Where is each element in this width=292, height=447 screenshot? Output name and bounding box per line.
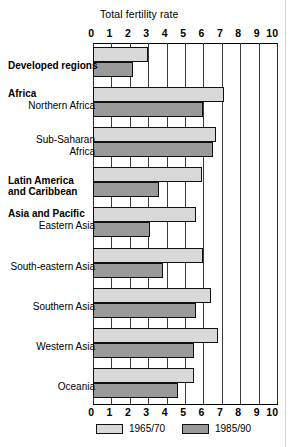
category-label-developed-regions: Developed regions (8, 60, 158, 72)
gridline-8 (240, 43, 241, 404)
category-label-latin-america-and-caribbean: Latin America and Caribbean (8, 175, 158, 198)
category-label-western-asia: Western Asia (0, 341, 95, 353)
bar-southern-asia-1985-90 (93, 303, 196, 318)
group-header-asia-and-pacific: Asia and Pacific (8, 208, 148, 220)
category-label-oceania: Oceania (0, 381, 95, 393)
gridline-10 (277, 43, 278, 404)
bar-western-asia-1965-70 (93, 328, 218, 343)
axis-rule-bottom (93, 404, 278, 405)
bar-oceania-1985-90 (93, 383, 178, 398)
x-tick-10: 10 (252, 27, 278, 40)
bar-western-asia-1985-90 (93, 343, 194, 358)
x-axis-tick-labels-top: 012345678910 (0, 27, 292, 40)
group-header-africa: Africa (8, 88, 148, 100)
bar-eastern-asia-1985-90 (93, 222, 150, 237)
bar-sub-saharan-africa-1985-90 (93, 142, 213, 157)
bar-south-eastern-asia-1965-70 (93, 248, 203, 263)
page-edge-rule (285, 0, 286, 447)
category-label-south-eastern-asia: South-eastern Asia (0, 261, 95, 273)
category-label-southern-asia: Southern Asia (0, 301, 95, 313)
x-tick-10: 10 (252, 406, 278, 419)
bar-southern-asia-1965-70 (93, 288, 211, 303)
legend-label-1985-90: 1985/90 (215, 422, 251, 436)
bar-oceania-1965-70 (93, 368, 194, 383)
category-label-eastern-asia: Eastern Asia (0, 220, 95, 232)
category-label-northern-africa: Northern Africa (0, 100, 95, 112)
bar-sub-saharan-africa-1965-70 (93, 127, 216, 142)
bar-northern-africa-1985-90 (93, 102, 203, 117)
legend-swatch-1985-90 (182, 424, 209, 434)
chart-title: Total fertility rate (100, 8, 178, 20)
legend-label-1965-70: 1965/70 (129, 422, 165, 436)
bar-south-eastern-asia-1985-90 (93, 263, 163, 278)
chart-legend: 1965/701985/90 (0, 422, 292, 438)
x-axis-tick-labels-bottom: 012345678910 (0, 406, 292, 419)
gridline-9 (259, 43, 260, 404)
category-label-sub-saharan-africa: Sub-Saharan Africa (0, 134, 95, 157)
fertility-rate-bar-chart: Total fertility rate 012345678910 012345… (0, 0, 292, 447)
legend-swatch-1965-70 (96, 424, 123, 434)
